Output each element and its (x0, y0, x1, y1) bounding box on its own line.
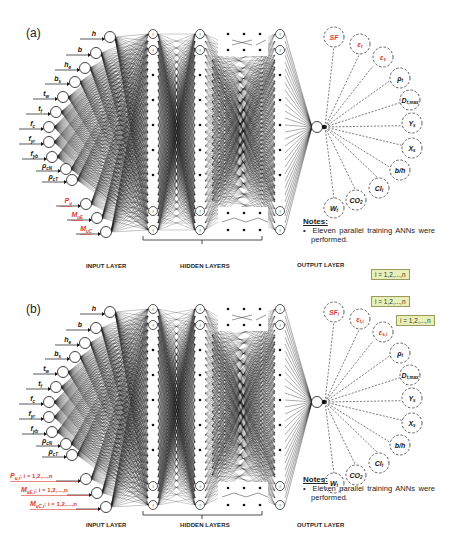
variable-label: fc (30, 395, 35, 404)
panel-b: hbhebstwtffcfyrfybρcNρcTPu,i; i = 1,2,..… (0, 278, 460, 555)
input-neuron (61, 439, 72, 450)
neuron-dot (199, 449, 202, 452)
notes-item: • Eleven parallel training ANNs were per… (303, 484, 435, 502)
input-neuron (105, 32, 116, 43)
output-layer-label: OUTPUT LAYER (297, 522, 344, 528)
output-connection (325, 127, 334, 199)
neuron-dot (227, 33, 230, 36)
variable-label: fyr (28, 410, 35, 419)
variable-label: tf (38, 380, 42, 389)
output-connection (325, 53, 360, 127)
neuron-dot (152, 374, 155, 377)
input-neuron (101, 227, 112, 238)
neuron-dot (279, 149, 282, 152)
neuron-dot (227, 487, 230, 490)
output-connection (325, 402, 334, 474)
variable-label: he (64, 336, 71, 345)
connections (54, 309, 312, 507)
input-neuron (80, 63, 91, 74)
neuron-dot (152, 124, 155, 127)
variable-label: b (78, 46, 83, 53)
neuron-dot (243, 324, 246, 327)
variable-label: bs (54, 75, 61, 84)
notes: Notes: • Eleven parallel training ANNs w… (303, 475, 435, 502)
input-neuron (101, 502, 112, 513)
variable-label: b (78, 321, 83, 328)
input-neuron (105, 307, 116, 318)
notes-title: Notes: (303, 475, 435, 484)
variable-label: ρcT (47, 173, 59, 182)
input-layer-label: INPUT LAYER (86, 263, 127, 269)
input-neuron (44, 397, 55, 408)
variable-label: MuE (71, 211, 84, 220)
output-connection (325, 66, 373, 127)
output-connection (325, 46, 334, 127)
neuron-dot (152, 174, 155, 177)
neuron-dot (199, 174, 202, 177)
neuron-dot (279, 124, 282, 127)
neuron-dot (227, 212, 230, 215)
neuron-dot (227, 504, 230, 507)
input-neuron (58, 367, 69, 378)
notes: Notes: • Eleven parallel training ANNs w… (303, 217, 435, 244)
input-neuron (91, 323, 102, 334)
neuron-dot (243, 229, 246, 232)
notes-text: Eleven parallel training ANNs were perfo… (311, 484, 435, 502)
neuron-dot (152, 424, 155, 427)
neuron-dot (227, 229, 230, 232)
output-connection (325, 127, 402, 145)
neuron-dot (259, 324, 262, 327)
notes-text: Eleven parallel training ANNs were perfo… (311, 226, 435, 244)
output-connection (325, 103, 400, 127)
input-neuron (51, 382, 62, 393)
neuron-dot (279, 174, 282, 177)
output-connection (325, 356, 390, 402)
neuron-dot (279, 349, 282, 352)
variable-label: tf (38, 105, 42, 114)
input-neuron (44, 122, 55, 133)
neuron-dot (279, 99, 282, 102)
neuron-dot (259, 212, 262, 215)
neuron-dot (199, 374, 202, 377)
notes-item: • Eleven parallel training ANNs were per… (303, 226, 435, 244)
notes-title: Notes: (303, 217, 435, 226)
panel-label: (b) (26, 302, 41, 316)
output-connection (325, 126, 402, 127)
neuron-dot (243, 49, 246, 52)
input-neuron (67, 450, 78, 461)
hidden-layers-bracket (143, 236, 262, 244)
neuron-dot (243, 504, 246, 507)
output-connection (325, 402, 379, 454)
input-neuron (92, 213, 103, 224)
output-connection (325, 341, 373, 402)
neuron-dot (199, 149, 202, 152)
neuron-dot (227, 308, 230, 311)
input-neuron (67, 175, 78, 186)
neuron-dot (243, 487, 246, 490)
output-layer-label: OUTPUT LAYER (297, 262, 344, 268)
input-neuron (81, 199, 92, 210)
variable-label: b/h (395, 442, 406, 449)
neuron-dot (259, 229, 262, 232)
input-neuron (81, 474, 92, 485)
neuron-dot (199, 424, 202, 427)
neuron-dot (279, 374, 282, 377)
iteration-tag: i = 1,2,...,n (396, 315, 435, 326)
input-neuron (44, 137, 55, 148)
neuron-dot (199, 399, 202, 402)
input-neuron (51, 107, 62, 118)
variable-label: b/h (395, 167, 406, 174)
variable-label: SF (330, 34, 340, 41)
network-diagram-b: hbhebstwtffcfyrfybρcNρcTPu,i; i = 1,2,..… (0, 278, 460, 555)
input-neuron (70, 352, 81, 363)
output-connection (325, 127, 379, 179)
variable-label: MuE,i; i = 1,2,...,n (21, 486, 68, 495)
neuron-dot (152, 99, 155, 102)
variable-label: tw (43, 365, 49, 374)
hidden-layers-label: HIDDEN LAYERS (180, 522, 230, 528)
variable-label: Pu,i; i = 1,2,...,n (10, 472, 53, 481)
output-neuron (312, 122, 323, 133)
output-connection (325, 401, 402, 402)
variable-label: MuC (80, 225, 93, 234)
variable-label: he (64, 61, 71, 70)
